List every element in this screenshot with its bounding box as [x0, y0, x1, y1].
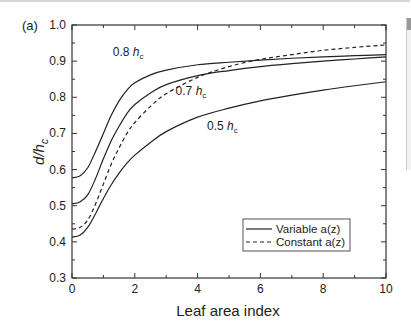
legend: Variable a(z) Constant a(z) — [243, 219, 350, 251]
curve-label-1: 0.7 hc — [176, 84, 207, 100]
legend-label-constant: Constant a(z) — [276, 236, 345, 248]
y-tick-label: 1.0 — [49, 18, 66, 32]
series-line-3 — [72, 82, 386, 237]
x-tick-label: 0 — [69, 282, 76, 296]
x-tick-label: 2 — [131, 282, 138, 296]
y-tick-label: 0.4 — [49, 235, 66, 249]
curve-label-0: 0.8 hc — [113, 45, 144, 61]
legend-label-variable: Variable a(z) — [276, 223, 341, 235]
x-tick-label: 10 — [379, 282, 393, 296]
y-tick-label: 0.5 — [49, 199, 66, 213]
y-tick-label: 0.6 — [49, 163, 66, 177]
y-tick-label: 0.3 — [49, 271, 66, 285]
x-axis-title: Leaf area index — [176, 302, 280, 319]
x-tick-label: 4 — [194, 282, 201, 296]
y-tick-label: 0.9 — [49, 54, 66, 68]
y-tick-label: 0.7 — [49, 126, 66, 140]
series-line-0 — [72, 55, 386, 178]
x-tick-label: 6 — [257, 282, 264, 296]
curve-label-2: 0.5 hc — [207, 119, 238, 135]
plot-curves — [72, 45, 386, 237]
y-axis-title-sub: c — [39, 139, 50, 144]
y-axis-title-main: d/h — [30, 144, 47, 165]
y-axis-title: d/hc — [30, 139, 50, 165]
y-tick-label: 0.8 — [49, 90, 66, 104]
x-tick-label: 8 — [320, 282, 327, 296]
curve-annotations: 0.8 hc0.7 hc0.5 hc — [113, 45, 238, 135]
series-line-2 — [72, 45, 386, 229]
panel-label: (a) — [22, 18, 38, 33]
svg-text:d/hc: d/hc — [30, 139, 50, 165]
